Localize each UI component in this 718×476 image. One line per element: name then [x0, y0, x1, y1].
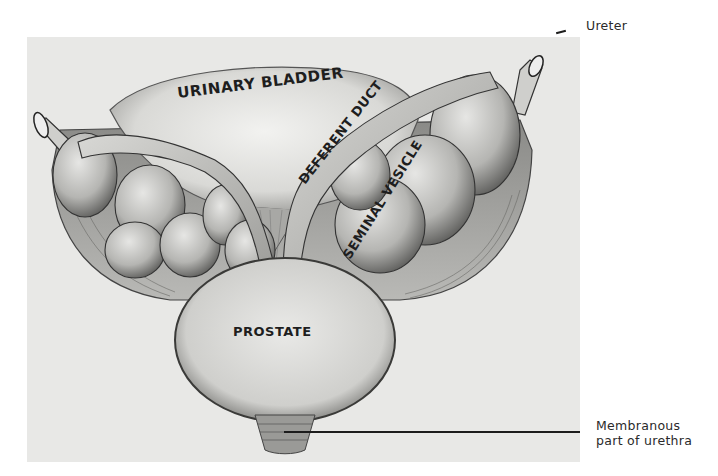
callout-ureter: Ureter: [586, 18, 627, 33]
callout-urethra-line1: Membranous: [596, 418, 680, 433]
prostate: [175, 258, 395, 422]
label-prostate: PROSTATE: [233, 324, 312, 339]
anatomy-illustration: URINARY BLADDER DEFERENT DUCT SEMINAL VE…: [0, 0, 718, 476]
membranous-urethra: [255, 415, 315, 454]
urethra-leader-line: [284, 431, 580, 433]
callout-urethra-line2: part of urethra: [596, 433, 692, 448]
